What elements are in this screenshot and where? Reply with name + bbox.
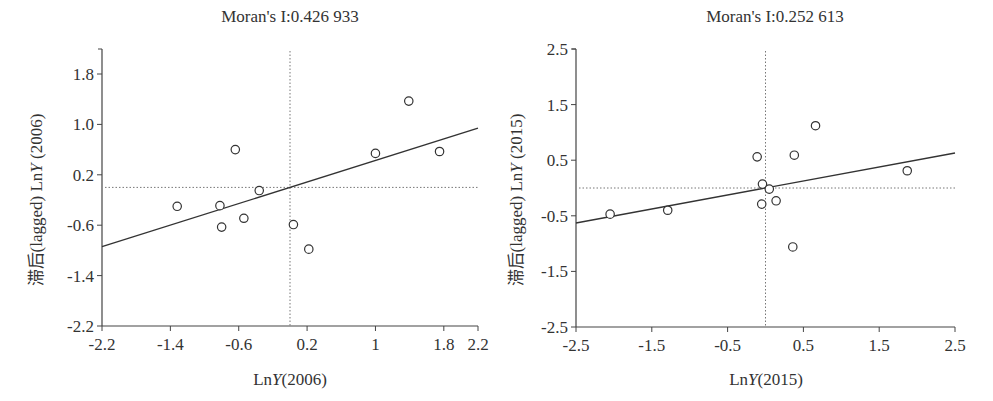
scatter-point [753, 153, 761, 161]
left-x-axis-label: LnY(2006) [253, 370, 327, 389]
scatter-point [289, 220, 297, 228]
x-tick-label: 1.8 [433, 335, 454, 354]
scatter-point [255, 186, 263, 194]
left-y-axis-label: 滞后(lagged) LnY (2006) [27, 114, 46, 287]
x-tick-label: -1.5 [638, 336, 665, 355]
x-tick-label: 0.2 [296, 335, 317, 354]
scatter-point [664, 206, 672, 214]
x-tick-label: -0.5 [714, 336, 741, 355]
right-chart-title: Moran's I:0.252 613 [706, 7, 844, 26]
x-tick-label: 0.5 [793, 336, 814, 355]
y-tick-label: -0.6 [67, 216, 94, 235]
scatter-point [216, 201, 224, 209]
scatter-point [240, 214, 248, 222]
x-tick-label: -0.6 [225, 335, 252, 354]
scatter-point [772, 197, 780, 205]
x-tick-label: 2.5 [944, 336, 965, 355]
scatter-point [789, 243, 797, 251]
right-plot-area: 2.51.50.5-0.5-1.5-2.5-2.5-1.5-0.50.51.52… [541, 40, 966, 355]
y-tick-label: -2.2 [67, 317, 94, 336]
scatter-point [790, 151, 798, 159]
scatter-point [371, 149, 379, 157]
y-tick-label: 0.2 [73, 166, 94, 185]
scatter-point [405, 97, 413, 105]
scatter-point [903, 167, 911, 175]
right-scatter-chart: Moran's I:0.252 613 2.51.50.5-0.5-1.5-2.… [507, 7, 966, 389]
scatter-point [231, 145, 239, 153]
scatter-point [173, 202, 181, 210]
y-tick-label: 0.5 [547, 151, 568, 170]
y-tick-label: -1.5 [541, 262, 568, 281]
scatter-point [811, 122, 819, 130]
scatter-point [606, 210, 614, 218]
y-tick-label: 2.5 [547, 40, 568, 59]
x-tick-label: 1.5 [869, 336, 890, 355]
right-x-axis-label: LnY(2015) [729, 370, 803, 389]
right-y-axis-label: 滞后(lagged) LnY (2015) [507, 114, 526, 287]
y-tick-label: 1.5 [547, 96, 568, 115]
y-tick-label: -2.5 [541, 318, 568, 337]
scatter-point [217, 223, 225, 231]
chart-canvas: Moran's I:0.426 933 1.81.00.2-0.6-1.4-2.… [0, 0, 993, 401]
y-tick-label: 1.8 [73, 65, 94, 84]
y-tick-label: -1.4 [67, 267, 94, 286]
x-tick-label: -2.2 [89, 335, 116, 354]
scatter-point [758, 200, 766, 208]
x-tick-label: 1 [371, 335, 380, 354]
x-tick-label: -1.4 [157, 335, 184, 354]
y-tick-label: -0.5 [541, 207, 568, 226]
x-tick-label: -2.5 [563, 336, 590, 355]
left-plot-area: 1.81.00.2-0.6-1.4-2.2-2.2-1.4-0.60.211.8… [67, 49, 489, 354]
scatter-point [765, 185, 773, 193]
x-tick-label: 2.2 [467, 335, 488, 354]
left-scatter-chart: Moran's I:0.426 933 1.81.00.2-0.6-1.4-2.… [27, 7, 489, 389]
scatter-point [435, 147, 443, 155]
scatter-point [305, 245, 313, 253]
left-chart-title: Moran's I:0.426 933 [221, 7, 359, 26]
y-tick-label: 1.0 [73, 115, 94, 134]
